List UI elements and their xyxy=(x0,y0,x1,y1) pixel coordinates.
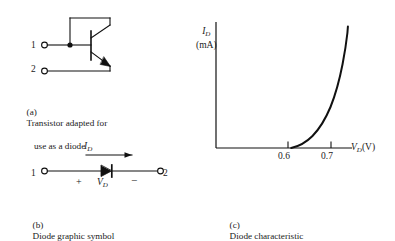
emitter-arrowhead-icon xyxy=(101,57,111,67)
panel-c-characteristic-chart xyxy=(216,22,352,148)
panel-a-transistor-circuit xyxy=(42,18,111,74)
chart-x-axis-units: (V) xyxy=(362,142,375,152)
transistor-collector-lead xyxy=(91,25,110,38)
chart-x-axis-label: VD(V) xyxy=(351,142,375,154)
caption-panel-a: (a) Transistor adapted for use as a diod… xyxy=(22,95,107,164)
terminal-2-node-a xyxy=(42,68,48,74)
diode-voltage-label: VD xyxy=(97,177,108,189)
current-direction-arrowhead-icon xyxy=(125,152,133,158)
caption-panel-b: (b) Diode graphic symbol xyxy=(28,208,114,241)
diode-voltage-subscript: D xyxy=(103,181,108,189)
chart-y-axis-label: ID(mA) xyxy=(196,26,217,51)
terminal-2-label-b: 2 xyxy=(163,168,168,178)
diode-iv-curve xyxy=(291,27,348,149)
terminal-1-label-b: 1 xyxy=(31,168,36,178)
terminal-1-label-a: 1 xyxy=(31,40,36,50)
caption-panel-c: (c) Diode characteristic xyxy=(225,208,303,241)
caption-b-prefix: (b) xyxy=(33,220,44,230)
caption-c-prefix: (c) xyxy=(230,220,240,230)
junction-dot-a xyxy=(67,42,72,47)
diode-triangle-icon xyxy=(101,166,112,177)
caption-b-text: Diode graphic symbol xyxy=(33,231,115,241)
terminal-2-label-a: 2 xyxy=(31,64,36,74)
chart-y-axis-subscript: D xyxy=(205,30,210,38)
polarity-plus-label: + xyxy=(76,176,82,187)
caption-a-line2: use as a diode xyxy=(22,141,107,153)
polarity-minus-label: − xyxy=(131,174,137,186)
chart-y-axis-units: (mA) xyxy=(196,40,217,51)
diode-current-label: ID xyxy=(84,141,92,153)
terminal-1-node-b xyxy=(42,168,48,174)
terminal-1-node-a xyxy=(42,42,48,48)
chart-xticklabel-0-7: 0.7 xyxy=(321,151,333,161)
diode-current-subscript: D xyxy=(87,145,92,153)
caption-a-line1: Transistor adapted for xyxy=(26,118,107,128)
caption-c-text: Diode characteristic xyxy=(230,231,304,241)
chart-xticklabel-0-6: 0.6 xyxy=(278,151,290,161)
caption-a-prefix: (a) xyxy=(27,107,37,117)
